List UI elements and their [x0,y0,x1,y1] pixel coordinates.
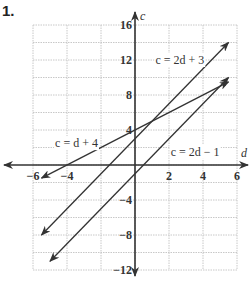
equation-label: c = 2d + 3 [155,53,204,67]
y-tick-label: −12 [113,263,132,277]
y-tick-label: −4 [119,193,132,207]
y-axis-label: c [140,9,146,23]
y-tick-label: 8 [126,88,132,102]
equation-label: c = d + 4 [55,136,98,150]
x-axis-label: d [241,146,248,160]
y-tick-label: 16 [120,18,132,32]
x-tick-label: −4 [61,169,74,183]
y-tick-label: 12 [120,53,132,67]
x-tick-label: 2 [166,169,172,183]
linear-equations-graph: dc−6−4246161284−4−8−12c = 2d + 3c = d + … [0,0,252,285]
equation-label: c = 2d − 1 [171,145,220,159]
x-tick-label: −6 [27,169,40,183]
y-tick-label: −8 [119,228,132,242]
x-tick-label: 6 [234,169,240,183]
x-tick-label: 4 [200,169,206,183]
